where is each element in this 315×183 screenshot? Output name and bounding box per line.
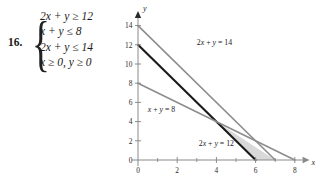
constraint-line-3 (138, 83, 295, 160)
worksheet-figure: 16. { 2x + y ≥ 12 x + y ≤ 8 2x + y ≤ 14 … (0, 0, 315, 183)
equation-labels-layer: 2x + y = 142x + y = 12x + y = 8 (147, 38, 234, 148)
inequality-4: x ≥ 0, y ≥ 0 (40, 55, 93, 70)
x-tick-label: 8 (293, 166, 297, 175)
x-tick-label: 2 (175, 166, 179, 175)
inequality-2: x + y ≤ 8 (40, 24, 93, 39)
y-tick-label: 4 (129, 117, 133, 126)
x-axis-label: x (311, 158, 315, 167)
equation-label-3: x + y = 8 (147, 105, 176, 114)
y-axis-label: y (142, 4, 147, 13)
y-tick-label: 10 (125, 60, 133, 69)
y-axis-arrow (135, 11, 141, 18)
plot-svg: 0246802468101214xy 2x + y = 142x + y = 1… (125, 0, 315, 183)
y-tick-label: 12 (125, 41, 133, 50)
tick-labels-layer: 0246802468101214xy (125, 4, 315, 175)
x-tick-label: 4 (215, 166, 219, 175)
x-axis-arrow (303, 157, 310, 163)
x-tick-label: 6 (254, 166, 258, 175)
equation-label-2: 2x + y = 12 (199, 139, 234, 148)
problem-number: 16. (8, 36, 22, 48)
y-tick-label: 2 (129, 137, 133, 146)
constraint-line-2 (138, 45, 256, 160)
equation-label-1: 2x + y = 14 (197, 38, 232, 47)
inequality-list: 2x + y ≥ 12 x + y ≤ 8 2x + y ≤ 14 x ≥ 0,… (40, 9, 93, 71)
x-tick-label: 0 (136, 166, 140, 175)
inequality-1: 2x + y ≥ 12 (40, 9, 93, 24)
y-tick-label: 0 (129, 156, 133, 165)
coordinate-graph: 0246802468101214xy 2x + y = 142x + y = 1… (125, 0, 315, 183)
problem-block: 16. { 2x + y ≥ 12 x + y ≤ 8 2x + y ≤ 14 … (0, 0, 135, 183)
y-tick-label: 14 (125, 21, 133, 30)
y-tick-label: 6 (129, 98, 133, 107)
inequality-3: 2x + y ≤ 14 (40, 40, 93, 55)
y-tick-label: 8 (129, 79, 133, 88)
